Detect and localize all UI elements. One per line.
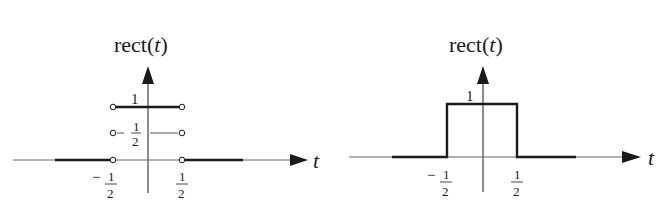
right-t-axis-arrow-icon (622, 151, 641, 163)
svg-text:1: 1 (179, 169, 186, 184)
svg-text:1: 1 (514, 167, 521, 182)
rect-pulse (392, 104, 576, 157)
right-xtick-pos-half: 1 2 (511, 167, 523, 199)
open-circle-icon (179, 157, 185, 163)
left-y-axis-arrow-icon (142, 66, 154, 84)
open-circle-icon (110, 157, 116, 163)
left-xtick-neg-half: − 1 2 (92, 169, 117, 201)
left-title: rect(t) (114, 32, 168, 57)
left-panel: rect(t) t 1 − 1 2 − 1 2 (13, 32, 320, 201)
left-xtick-pos-half: 1 2 (176, 169, 188, 201)
right-ytick-one: 1 (466, 88, 474, 104)
right-title: rect(t) (449, 32, 503, 57)
open-circle-icon (179, 104, 185, 110)
svg-text:1: 1 (108, 169, 115, 184)
svg-text:−: − (92, 169, 100, 185)
left-half-num: 1 (133, 119, 140, 134)
right-panel: rect(t) t 1 − 1 2 1 2 (349, 32, 655, 199)
svg-text:2: 2 (442, 184, 449, 199)
right-y-axis-arrow-icon (477, 66, 489, 84)
svg-text:2: 2 (513, 184, 520, 199)
left-t-axis-arrow-icon (290, 154, 308, 166)
open-circle-icon (110, 104, 116, 110)
rect-function-diagram: rect(t) t 1 − 1 2 − 1 2 (0, 0, 671, 224)
left-half-den: 2 (132, 134, 139, 149)
svg-text:2: 2 (107, 186, 114, 201)
left-t-label: t (313, 148, 320, 173)
svg-text:−: − (427, 167, 435, 183)
right-t-label: t (648, 145, 655, 170)
svg-text:2: 2 (178, 186, 185, 201)
svg-text:1: 1 (443, 167, 450, 182)
right-xtick-neg-half: − 1 2 (427, 167, 452, 199)
left-ytick-one: 1 (131, 91, 139, 107)
open-circle-icon (110, 130, 116, 136)
open-circle-icon (179, 130, 185, 136)
